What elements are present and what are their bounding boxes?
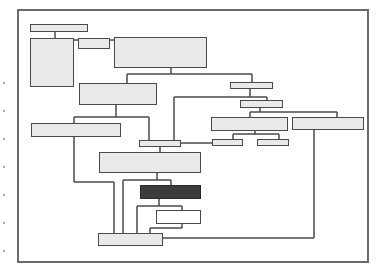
node-h [211,117,288,131]
margin-mark [3,138,5,140]
margin-mark [3,194,5,196]
margin-mark [3,250,5,252]
node-b [30,38,74,87]
margin-mark [3,110,5,112]
node-l [31,123,121,137]
node-g [240,100,283,108]
diagram-canvas [0,0,382,269]
margin-mark [3,82,5,84]
node-e [79,83,157,105]
node-m [139,140,181,147]
node-n [99,152,201,173]
node-d [114,37,207,68]
margin-mark [3,166,5,168]
node-i [292,117,364,130]
node-k [257,139,289,146]
node-c [78,38,110,49]
node-q [98,233,163,246]
node-p [156,210,201,224]
node-o [140,185,201,199]
node-j [212,139,243,146]
node-a [30,24,88,32]
node-f [230,82,273,89]
margin-mark [3,222,5,224]
